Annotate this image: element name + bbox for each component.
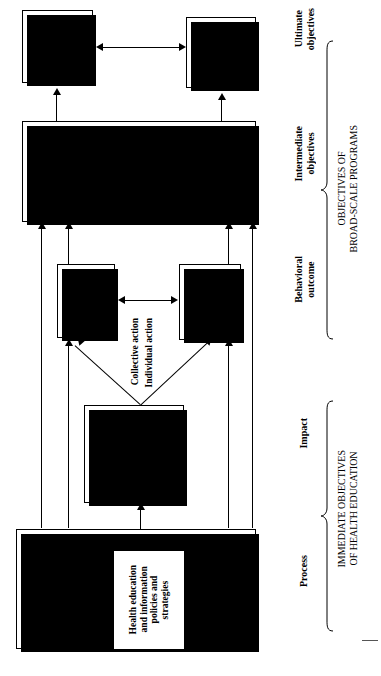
grouping-label-broad-scale-programs: OBJECTIVES OF BROAD-SCALE PROGRAMS — [336, 125, 364, 257]
connector-healthpolicy-to-intermediate — [252, 228, 253, 528]
connector-participation-link — [124, 300, 172, 301]
box-health-education-policies[interactable]: Health education and information policie… — [113, 550, 185, 650]
box-community-participation-text-wrap: Community participation objectives — [58, 265, 114, 337]
box-process-group[interactable]: Community social and economic developmen… — [16, 529, 256, 649]
connector-process-to-indpart — [228, 345, 229, 528]
box-intermediate-objectives[interactable]: Development sectors (e.g., community dev… — [22, 121, 256, 222]
connector-hs-to-healthneeds — [221, 99, 222, 122]
box-health-needs-goals[interactable]: Health needs and goals — [186, 17, 256, 88]
connector-social-to-intermediate — [41, 228, 42, 528]
box-health-education-objectives-text-wrap: Health education objectives (e.g., predi… — [85, 406, 183, 502]
page-corner-mark — [362, 640, 378, 641]
box-community-health-policies: Community health policies and strategies — [193, 530, 253, 648]
box-health-services: Health services, health protection, and … — [173, 122, 257, 221]
box-individual-participation-objectives[interactable]: Individual and family participation obje… — [179, 264, 241, 340]
label-individual-action: Individual action — [144, 318, 157, 398]
brace-health-education — [320, 400, 334, 632]
box-economic-social-goals[interactable]: Economic and social goals and needs — [22, 10, 93, 83]
box-individual-participation-text-wrap: Individual and family participation obje… — [180, 265, 240, 339]
box-economic-social-goals-text-wrap: Economic and social goals and needs — [23, 11, 92, 82]
stage-label-ultimate-objectives: Ultimate objectives — [293, 8, 319, 94]
brace-broad-scale — [320, 40, 334, 340]
box-health-education-objectives[interactable]: Health education objectives (e.g., predi… — [84, 405, 184, 503]
stage-label-impact: Impact — [298, 418, 312, 476]
box-health-needs-goals-text-wrap: Health needs and goals — [187, 18, 255, 87]
box-development-sectors: Development sectors (e.g., community dev… — [37, 122, 123, 221]
stage-label-intermediate-objectives: Intermediate objectives — [293, 126, 319, 226]
arrowhead-participation-left — [118, 296, 125, 304]
stage-label-behavioral-outcome: Behavioral outcome — [293, 256, 319, 348]
box-community-social-policies: Community social and economic developmen… — [25, 530, 107, 648]
arrowhead-hs-to-healthneeds — [218, 93, 226, 100]
grouping-label-immediate-objectives: IMMEDIATE OBJECTIVES OF HEALTH EDUCATION — [336, 450, 364, 602]
connector-dev-to-economic — [56, 95, 57, 121]
stage-label-process: Process — [298, 555, 312, 617]
connector-goals-link — [102, 47, 180, 48]
diagram-canvas: Economic and social goals and needs Heal… — [0, 0, 381, 676]
connector-process-to-commpart — [68, 345, 69, 528]
arrowhead-goals-right — [179, 43, 186, 51]
label-collective-action: Collective action — [130, 318, 143, 394]
box-community-participation-objectives[interactable]: Community participation objectives — [57, 264, 115, 338]
arrowhead-goals-left — [96, 43, 103, 51]
arrowhead-dev-to-economic — [53, 88, 61, 95]
connector-indpart-to-intermediate — [228, 228, 229, 266]
connector-commpart-to-intermediate — [68, 228, 69, 266]
arrowhead-participation-right — [171, 296, 178, 304]
